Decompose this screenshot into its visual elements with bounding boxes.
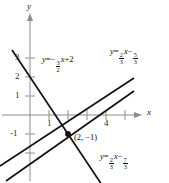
eq3-constant-fraction: 73 <box>123 157 128 171</box>
x-axis-label: x <box>147 108 151 117</box>
equation-label-line3: y=23x−73 <box>100 152 128 171</box>
eq2-constant-fraction: 53 <box>133 52 138 66</box>
equation-label-line1: y=−32x+2 <box>42 55 74 74</box>
eq3-slope-fraction: 23 <box>109 157 114 171</box>
eq2-operator: − <box>128 46 133 56</box>
eq1-constant: 2 <box>69 54 73 64</box>
eq3-equals: = <box>104 151 109 161</box>
eq3-constant-denominator: 3 <box>123 163 128 170</box>
graph-figure: 3 2 1 -1 1 4 y x y=−32x+2 y=23x−53 y=23x… <box>0 0 169 183</box>
eq2-slope-fraction: 23 <box>119 52 124 66</box>
eq2-equals: = <box>114 46 119 56</box>
eq1-slope-fraction: 32 <box>56 60 61 74</box>
y-tick-label-1: 1 <box>15 91 20 100</box>
x-tick-label-1: 1 <box>47 119 52 128</box>
equation-label-line2: y=23x−53 <box>110 47 138 66</box>
eq1-slope-denominator: 2 <box>56 66 61 73</box>
eq3-slope-denominator: 3 <box>109 163 114 170</box>
eq3-operator: − <box>118 151 123 161</box>
intersection-point-label: (2, −1) <box>74 133 97 142</box>
eq1-sign: − <box>51 54 56 64</box>
y-tick-label-2: 2 <box>15 72 20 81</box>
x-tick-label-4: 4 <box>104 119 109 128</box>
y-tick-label-3: 3 <box>15 53 20 62</box>
y-axis-label: y <box>27 2 31 11</box>
y-axis <box>27 13 33 181</box>
eq2-constant-denominator: 3 <box>133 58 138 65</box>
intersection-point-marker <box>65 131 71 137</box>
eq2-slope-denominator: 3 <box>119 58 124 65</box>
coordinate-plot <box>0 0 169 183</box>
y-tick-label-neg1: -1 <box>10 129 18 138</box>
x-axis <box>2 112 142 118</box>
